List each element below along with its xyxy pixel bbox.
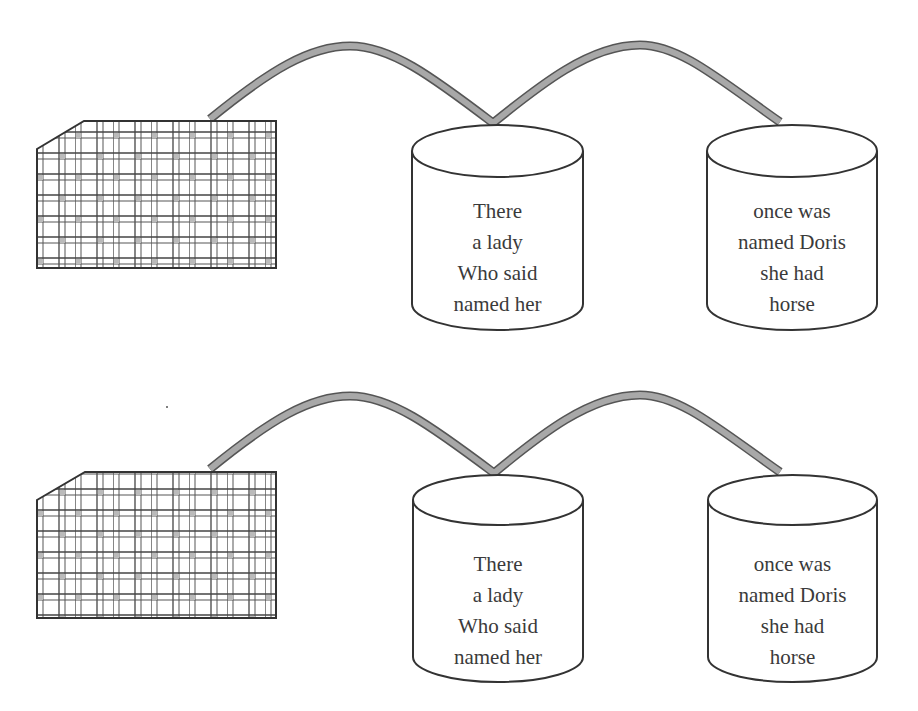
cable-connector: [210, 395, 780, 473]
cylinder-label-bottom-2: once was named Doris she had horse: [708, 549, 877, 673]
cylinder-label-top-1: There a lady Who said named her: [412, 196, 583, 320]
stray-dot: [166, 406, 168, 408]
cable-connector: [210, 45, 780, 123]
label-line: There: [412, 196, 583, 227]
label-line: horse: [707, 289, 877, 320]
label-line: Who said: [413, 611, 583, 642]
label-line: named Doris: [708, 580, 877, 611]
label-line: There: [413, 549, 583, 580]
label-line: once was: [707, 196, 877, 227]
cylinder-label-top-2: once was named Doris she had horse: [707, 196, 877, 320]
label-line: once was: [708, 549, 877, 580]
label-line: a lady: [413, 580, 583, 611]
label-line: named Doris: [707, 227, 877, 258]
grid-block-icon: [37, 121, 276, 268]
grid-block-icon: [37, 472, 276, 618]
label-line: she had: [707, 258, 877, 289]
label-line: named her: [412, 289, 583, 320]
cylinder-label-bottom-1: There a lady Who said named her: [413, 549, 583, 673]
label-line: named her: [413, 642, 583, 673]
label-line: Who said: [412, 258, 583, 289]
label-line: horse: [708, 642, 877, 673]
label-line: a lady: [412, 227, 583, 258]
label-line: she had: [708, 611, 877, 642]
